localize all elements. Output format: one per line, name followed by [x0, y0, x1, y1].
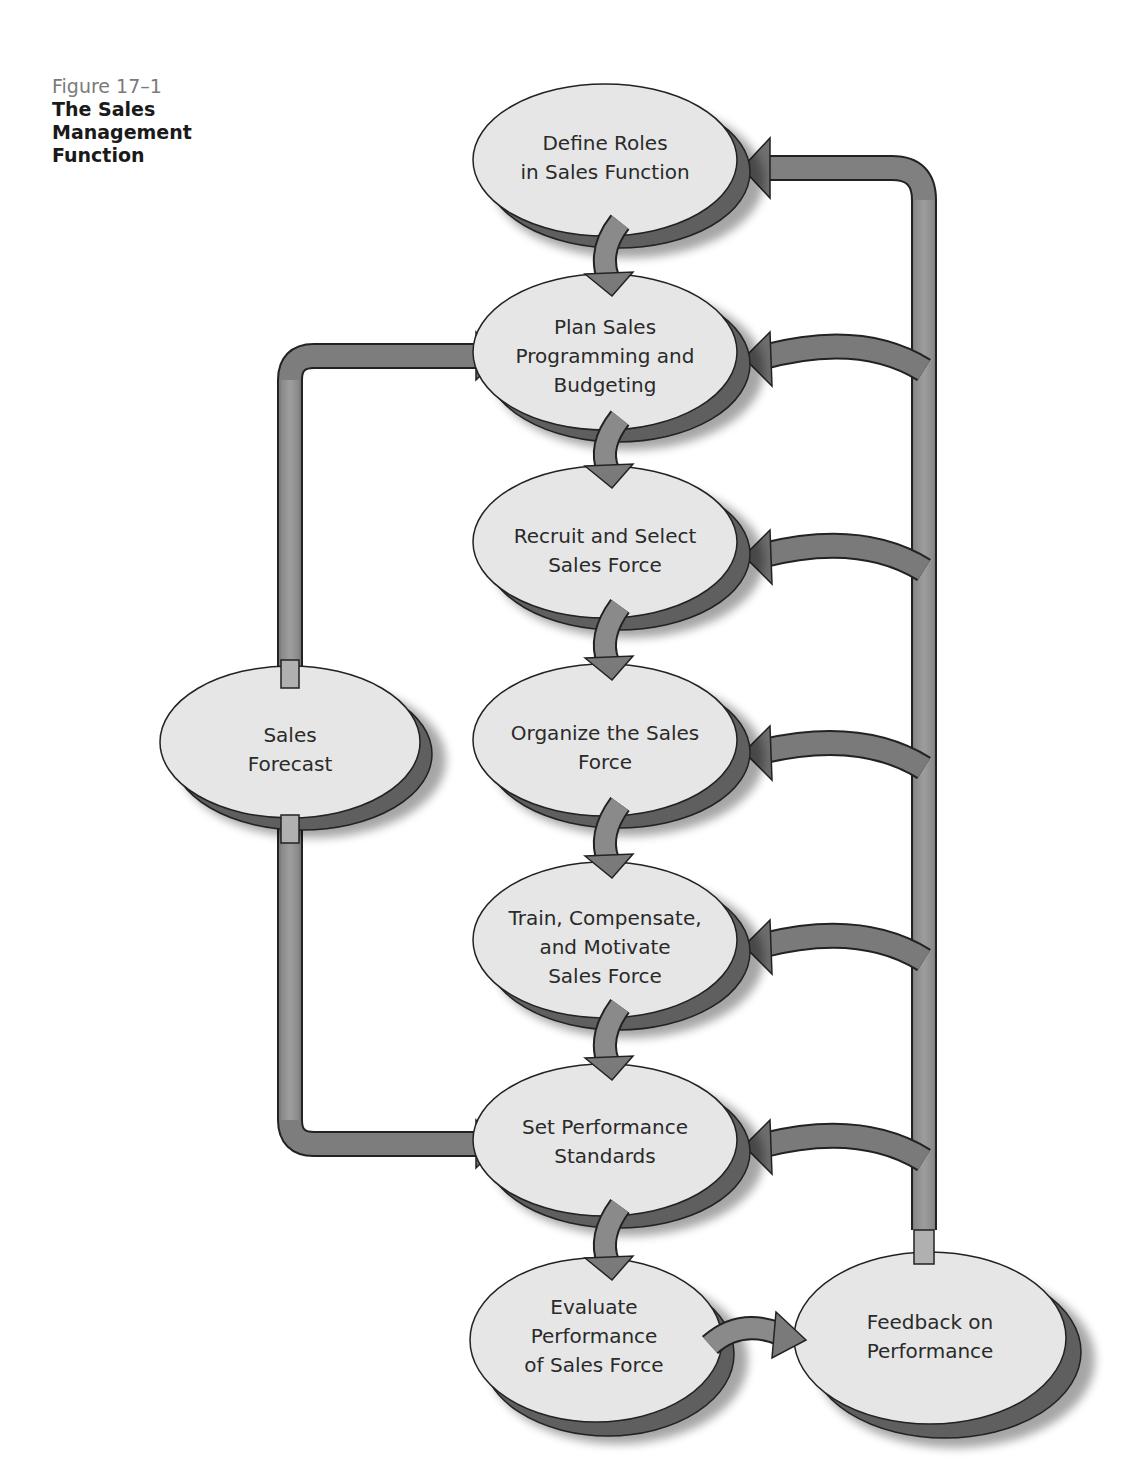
node-label-organize: Organize the Sales Force: [511, 719, 699, 777]
node-label-recruit-select: Recruit and Select Sales Force: [514, 522, 697, 580]
branch-to-plan-sales: [744, 332, 924, 386]
feedback-loop-arrow: [742, 138, 934, 1230]
label-line: Organize the Sales: [511, 719, 699, 748]
label-line: Sales Force: [508, 962, 701, 991]
node-label-plan-sales: Plan Sales Programming and Budgeting: [516, 313, 695, 400]
node-label-train-compensate: Train, Compensate, and Motivate Sales Fo…: [508, 904, 701, 991]
label-line: Feedback on: [867, 1308, 994, 1337]
label-line: Recruit and Select: [514, 522, 697, 551]
label-line: Sales: [248, 721, 333, 750]
label-line: Define Roles: [520, 129, 689, 158]
branch-to-set-standards: [744, 1120, 924, 1174]
label-line: Evaluate: [524, 1293, 663, 1322]
feedback-branch-arrows: [744, 332, 924, 1174]
label-line: Set Performance: [522, 1113, 688, 1142]
label-line: Budgeting: [516, 371, 695, 400]
node-label-evaluate: Evaluate Performance of Sales Force: [524, 1293, 663, 1380]
node-label-sales-forecast: Sales Forecast: [248, 721, 333, 779]
label-line: of Sales Force: [524, 1351, 663, 1380]
label-line: Performance: [867, 1337, 994, 1366]
branch-to-organize: [744, 726, 924, 780]
label-line: Standards: [522, 1142, 688, 1171]
label-line: Plan Sales: [516, 313, 695, 342]
branch-to-recruit: [744, 530, 924, 584]
label-line: Train, Compensate,: [508, 904, 701, 933]
label-line: Force: [511, 748, 699, 777]
label-line: and Motivate: [508, 933, 701, 962]
label-line: Performance: [524, 1322, 663, 1351]
node-label-feedback: Feedback on Performance: [867, 1308, 994, 1366]
label-line: Programming and: [516, 342, 695, 371]
node-label-set-standards: Set Performance Standards: [522, 1113, 688, 1171]
node-label-define-roles: Define Roles in Sales Function: [520, 129, 689, 187]
branch-to-train: [744, 920, 924, 974]
label-line: in Sales Function: [520, 158, 689, 187]
label-line: Forecast: [248, 750, 333, 779]
label-line: Sales Force: [514, 551, 697, 580]
